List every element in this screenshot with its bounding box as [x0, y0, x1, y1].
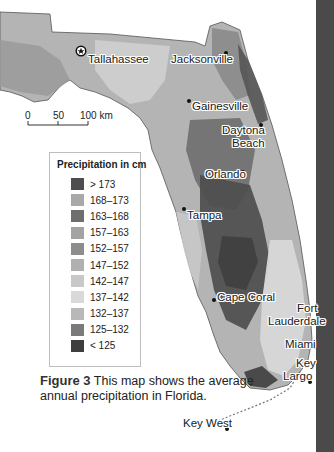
legend-swatch [71, 340, 84, 352]
legend-label: 125–132 [90, 324, 129, 335]
label-miami: Miami [285, 338, 316, 350]
legend-item: 125–132 [71, 322, 140, 338]
legend-label: 132–137 [90, 308, 129, 319]
map-legend: Precipitation in cm > 173168–173163–1681… [49, 152, 141, 367]
legend-item: 147–152 [71, 257, 140, 273]
legend-label: 157–163 [90, 227, 129, 238]
legend-label: 152–157 [90, 243, 129, 254]
legend-label: 147–152 [90, 260, 129, 271]
figure-caption: Figure 3 This map shows the average annu… [40, 373, 255, 404]
legend-label: > 173 [90, 179, 115, 190]
legend-swatch [71, 291, 84, 303]
legend-swatch [71, 210, 84, 222]
legend-item: 163–168 [71, 208, 140, 224]
city-dot-tampa [182, 207, 186, 211]
label-tallahassee: Tallahassee [88, 53, 149, 65]
city-dot-gainesville [187, 99, 191, 103]
legend-item: > 173 [71, 176, 140, 192]
legend-item: 168–173 [71, 192, 140, 208]
legend-item: 142–147 [71, 273, 140, 289]
legend-item: < 125 [71, 338, 140, 354]
figure-number: Figure 3 [40, 373, 91, 388]
label-beach: Beach [232, 137, 265, 149]
label-key: Key [296, 357, 316, 369]
scale-tick-0: 0 [25, 110, 31, 121]
capital-star-icon [76, 46, 87, 57]
label-jacksonville: Jacksonville [171, 53, 233, 65]
scale-tick-100km: 100 km [80, 110, 113, 121]
legend-item: 157–163 [71, 225, 140, 241]
legend-swatch [71, 259, 84, 271]
legend-swatch [71, 243, 84, 255]
legend-swatch [71, 308, 84, 320]
label-gainesville: Gainesville [192, 100, 248, 112]
label-key-west: Key West [183, 417, 232, 429]
label-lauderdale: Lauderdale [268, 315, 326, 327]
label-daytona: Daytona [222, 124, 265, 136]
label-largo: Largo [283, 370, 312, 382]
label-fort: Fort [297, 302, 317, 314]
legend-label: 142–147 [90, 276, 129, 287]
scale-bar [28, 121, 88, 125]
legend-swatch [71, 178, 84, 190]
legend-label: 163–168 [90, 211, 129, 222]
legend-label: 168–173 [90, 195, 129, 206]
label-cape-coral: Cape Coral [217, 291, 275, 303]
label-tampa: Tampa [187, 209, 222, 221]
legend-swatch [71, 194, 84, 206]
legend-label: < 125 [90, 340, 115, 351]
label-orlando: Orlando [205, 168, 246, 180]
scale-tick-50: 50 [53, 110, 64, 121]
page-edge-band [316, 0, 334, 452]
legend-item: 152–157 [71, 241, 140, 257]
legend-item: 132–137 [71, 306, 140, 322]
city-dot-cape-coral [212, 298, 216, 302]
legend-item: 137–142 [71, 289, 140, 305]
legend-title: Precipitation in cm [57, 159, 140, 170]
legend-swatch [71, 324, 84, 336]
legend-label: 137–142 [90, 292, 129, 303]
legend-swatch [71, 275, 84, 287]
legend-swatch [71, 227, 84, 239]
